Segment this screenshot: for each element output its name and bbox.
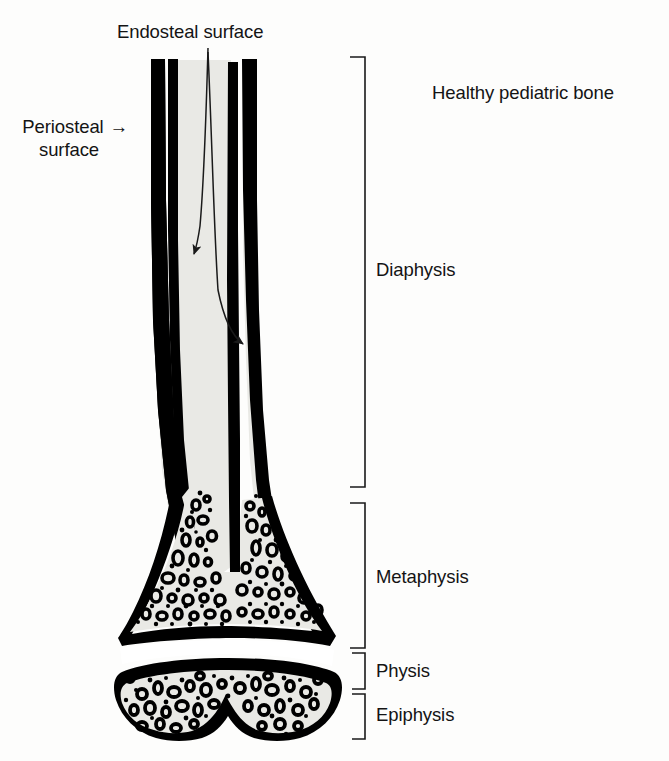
bracket-epiphysis <box>352 694 365 739</box>
label-diaphysis: Diaphysis <box>376 258 455 281</box>
bone-anatomy-figure: Endosteal surface Periosteal→ surface He… <box>0 0 669 761</box>
bracket-diaphysis <box>350 57 365 487</box>
label-endosteal-surface: Endosteal surface <box>117 20 263 43</box>
right-periosteal-cortex <box>242 59 278 546</box>
label-metaphysis: Metaphysis <box>376 565 469 588</box>
label-periosteal-surface: Periosteal→ surface <box>10 115 128 162</box>
bone-body <box>114 48 365 741</box>
bracket-metaphysis <box>350 503 365 648</box>
label-epiphysis: Epiphysis <box>376 703 454 726</box>
periosteal-label-line-1: Periosteal→ <box>4 115 128 138</box>
label-healthy-pediatric-bone: Healthy pediatric bone <box>432 81 614 104</box>
periosteal-arrow-icon: → <box>110 116 128 137</box>
periosteal-label-line-2: surface <box>10 138 128 161</box>
region-brackets <box>350 57 365 739</box>
bracket-physis <box>352 653 365 689</box>
label-physis: Physis <box>376 659 430 682</box>
